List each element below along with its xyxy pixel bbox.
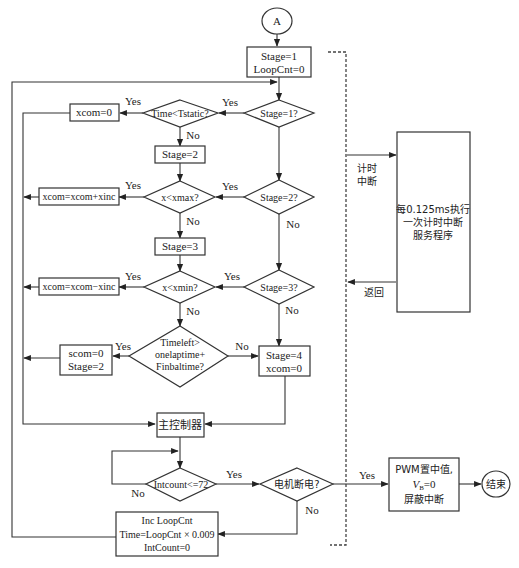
interrupt-bracket	[328, 52, 346, 545]
svg-text:服务程序: 服务程序	[413, 229, 453, 241]
decision-time-tstatic: Time<Tstatic?	[143, 100, 218, 127]
decision-stage3: Stage=3?	[244, 270, 314, 304]
svg-text:IntCount=0: IntCount=0	[144, 542, 190, 553]
svg-text:结束: 结束	[486, 478, 506, 490]
svg-text:scom=0: scom=0	[69, 347, 104, 359]
decision-x-xmax: x<xmax?	[144, 181, 215, 213]
svg-text:计时: 计时	[357, 162, 377, 174]
decision-timeleft: Timeleft> onelaptime+ Finbaltime?	[129, 326, 228, 387]
svg-text:Stage=1?: Stage=1?	[260, 108, 298, 119]
svg-text:No: No	[186, 215, 200, 227]
decision-motor-off: 电机断电?	[260, 468, 333, 501]
svg-text:xcom=0: xcom=0	[266, 362, 303, 374]
svg-text:Stage=1: Stage=1	[261, 50, 297, 62]
box-xcom-plus: xcom=xcom+xinc	[39, 188, 119, 205]
svg-text:PWM置中值,: PWM置中值,	[395, 463, 453, 475]
box-main-controller: 主控制器	[157, 413, 204, 437]
svg-text:每0.125ms执行: 每0.125ms执行	[396, 203, 470, 215]
svg-text:Time<Tstatic?: Time<Tstatic?	[151, 108, 209, 119]
decision-stage2: Stage=2?	[244, 180, 314, 214]
flowchart: A Stage=1 LoopCnt=0 Stage=1? Yes Time<Ts…	[0, 0, 519, 568]
svg-text:Stage=2: Stage=2	[68, 360, 104, 372]
svg-text:No: No	[235, 340, 249, 352]
svg-text:Yes: Yes	[125, 270, 141, 282]
init-box: Stage=1 LoopCnt=0	[247, 47, 311, 77]
svg-text:A: A	[273, 15, 281, 27]
svg-text:Yes: Yes	[125, 179, 141, 191]
svg-text:屏蔽中断: 屏蔽中断	[404, 493, 444, 505]
box-stage2-set: Stage=2	[155, 146, 205, 163]
decision-intcount: Intcount<=72	[146, 468, 216, 501]
box-xcom-minus: xcom=xcom−xinc	[39, 278, 119, 295]
box-stage4: Stage=4 xcom=0	[259, 346, 310, 376]
svg-text:一次计时中断: 一次计时中断	[403, 216, 463, 228]
arrow	[218, 501, 297, 534]
svg-text:xcom=xcom+xinc: xcom=xcom+xinc	[43, 191, 116, 202]
svg-text:Inc LoopCnt: Inc LoopCnt	[142, 515, 193, 526]
decision-x-xmin: x<xmin?	[144, 271, 215, 303]
svg-text:LoopCnt=0: LoopCnt=0	[254, 63, 305, 75]
svg-text:onelaptime+: onelaptime+	[155, 349, 205, 360]
svg-text:Stage=3: Stage=3	[162, 240, 199, 252]
svg-text:x<xmax?: x<xmax?	[161, 192, 199, 203]
box-stage3-set: Stage=3	[155, 238, 205, 255]
svg-text:No: No	[186, 129, 200, 141]
svg-text:VB=0: VB=0	[412, 478, 436, 492]
svg-text:No: No	[286, 218, 300, 230]
svg-text:Yes: Yes	[125, 95, 141, 107]
return-line	[23, 113, 155, 424]
arrow	[205, 376, 285, 424]
svg-text:Stage=2: Stage=2	[162, 148, 198, 160]
svg-text:Stage=3?: Stage=3?	[260, 282, 298, 293]
svg-text:Yes: Yes	[222, 96, 238, 108]
svg-text:返回: 返回	[364, 287, 384, 298]
svg-text:xcom=0: xcom=0	[76, 106, 113, 118]
decision-stage1: Stage=1?	[244, 100, 314, 127]
svg-text:Stage=4: Stage=4	[266, 349, 303, 361]
svg-text:No: No	[186, 305, 200, 317]
svg-text:xcom=xcom−xinc: xcom=xcom−xinc	[43, 281, 116, 292]
end-connector: 结束	[482, 471, 510, 497]
box-loop-inc: Inc LoopCnt Time=LoopCnt × 0.009 IntCoun…	[116, 512, 218, 556]
box-interrupt-service: 每0.125ms执行 一次计时中断 服务程序	[396, 132, 470, 312]
box-pwm: PWM置中值, VB=0 屏蔽中断	[389, 458, 459, 511]
svg-text:主控制器: 主控制器	[158, 418, 202, 432]
svg-text:No: No	[285, 304, 299, 316]
start-connector: A	[262, 8, 292, 34]
svg-text:No: No	[305, 504, 319, 516]
svg-text:Yes: Yes	[226, 468, 242, 480]
svg-text:Timeleft>: Timeleft>	[160, 337, 200, 348]
svg-text:Intcount<=72: Intcount<=72	[154, 479, 209, 490]
svg-text:Finbaltime?: Finbaltime?	[156, 361, 204, 372]
box-scom-stage2: scom=0 Stage=2	[60, 345, 112, 375]
svg-text:Yes: Yes	[115, 340, 131, 352]
svg-text:Stage=2?: Stage=2?	[260, 192, 298, 203]
svg-text:Time=LoopCnt × 0.009: Time=LoopCnt × 0.009	[119, 529, 214, 540]
svg-text:Yes: Yes	[359, 469, 375, 481]
box-xcom0: xcom=0	[70, 104, 119, 121]
svg-text:电机断电?: 电机断电?	[274, 478, 319, 490]
svg-text:Yes: Yes	[224, 270, 240, 282]
svg-text:Yes: Yes	[222, 180, 238, 192]
svg-text:x<xmin?: x<xmin?	[162, 282, 198, 293]
svg-text:中断: 中断	[357, 175, 377, 187]
svg-text:No: No	[131, 487, 145, 499]
